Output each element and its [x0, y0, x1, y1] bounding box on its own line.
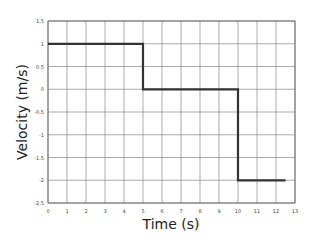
x-tick-label: 11	[254, 208, 260, 214]
x-tick-label: 1	[65, 208, 68, 214]
x-tick-label: 12	[273, 208, 279, 214]
x-axis-label: Time (s)	[142, 216, 200, 232]
x-tick-label: 7	[179, 208, 182, 214]
tick-labels: 0123456789101112131.510.50-0.5-1-1.5-2-2…	[34, 18, 298, 214]
x-tick-label: 0	[46, 208, 49, 214]
x-tick-label: 6	[160, 208, 163, 214]
y-tick-label: -0.5	[34, 109, 44, 115]
x-tick-label: 9	[217, 208, 220, 214]
y-tick-label: -2	[39, 177, 44, 183]
y-tick-label: 0.5	[36, 64, 44, 70]
x-tick-label: 3	[103, 208, 106, 214]
y-tick-label: -1.5	[34, 155, 44, 161]
y-tick-label: 0	[41, 86, 44, 92]
velocity-time-chart: 0123456789101112131.510.50-0.5-1-1.5-2-2…	[0, 0, 311, 251]
grid-lines	[48, 21, 295, 203]
x-tick-label: 5	[141, 208, 144, 214]
y-axis-label: Velocity (m/s)	[14, 64, 30, 160]
y-tick-label: -2.5	[34, 200, 44, 206]
x-tick-label: 10	[235, 208, 241, 214]
x-tick-label: 8	[198, 208, 201, 214]
y-tick-label: -1	[39, 132, 44, 138]
x-tick-label: 4	[122, 208, 125, 214]
y-tick-label: 1	[41, 41, 44, 47]
x-tick-label: 13	[292, 208, 298, 214]
y-tick-label: 1.5	[36, 18, 44, 24]
x-tick-label: 2	[84, 208, 87, 214]
